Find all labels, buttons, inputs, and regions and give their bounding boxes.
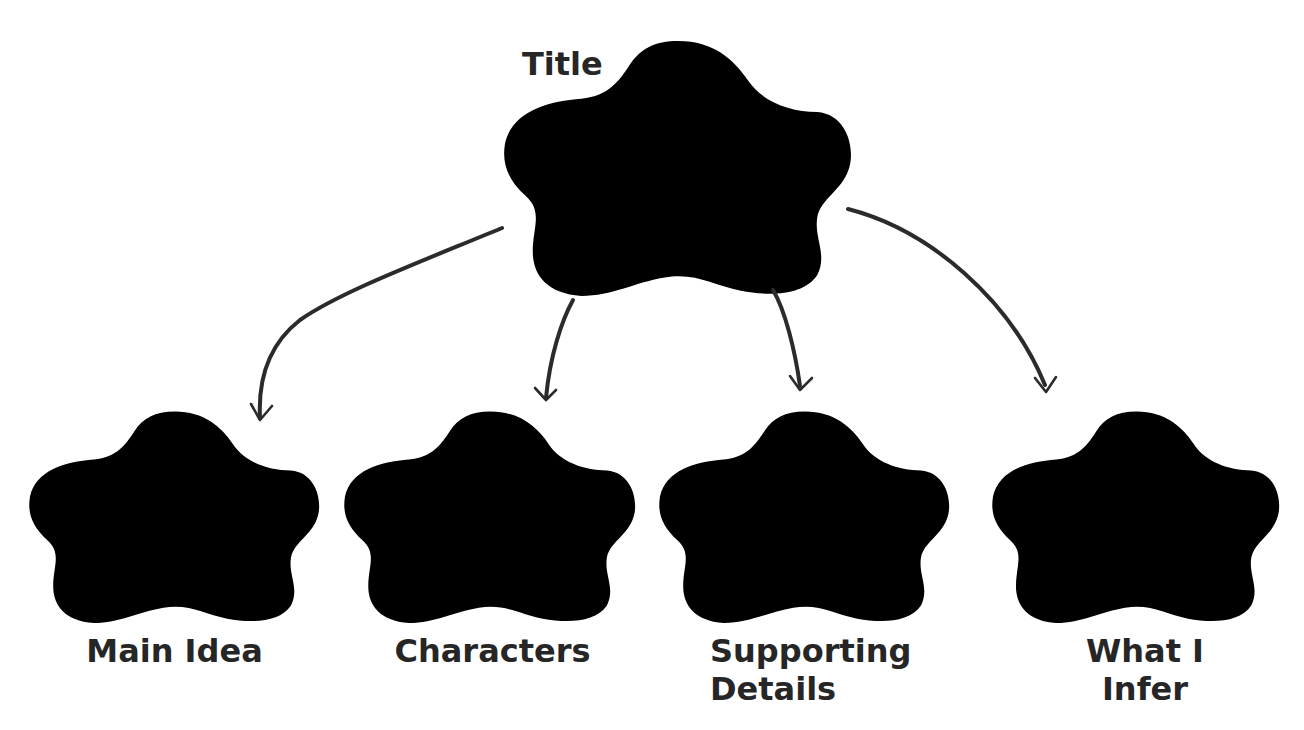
supporting-details-label-line1: Supporting: [710, 632, 910, 670]
what-i-infer-label: What I Infer: [1065, 632, 1225, 708]
supporting-details-label-line2: Details: [710, 670, 910, 708]
characters-flower-shape: [344, 412, 635, 623]
characters-label: Characters: [390, 632, 595, 670]
graphic-organizer: Title Main Idea Characters Supporting De…: [0, 0, 1304, 730]
what-i-infer-flower-shape: [992, 412, 1279, 623]
main-idea-flower-shape: [29, 412, 319, 623]
arrow-to-what-i-infer: [848, 209, 1056, 392]
arrow-to-main-idea: [251, 228, 502, 420]
supporting-details-label: Supporting Details: [710, 632, 910, 708]
arrow-to-supporting-details: [773, 290, 812, 390]
title-label: Title: [522, 45, 602, 83]
arrow-to-characters: [535, 300, 573, 400]
main-idea-label: Main Idea: [72, 632, 277, 670]
what-i-infer-label-line2: Infer: [1065, 670, 1225, 708]
supporting-details-flower-shape: [659, 412, 949, 623]
what-i-infer-label-line1: What I: [1065, 632, 1225, 670]
